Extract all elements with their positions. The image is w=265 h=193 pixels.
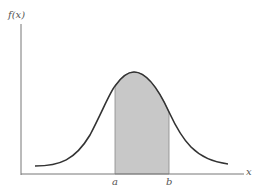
y-axis-label: f(x) — [8, 9, 25, 20]
shaded-area-a-to-b — [115, 72, 169, 174]
lower-bound-label: a — [112, 176, 118, 187]
upper-bound-label: b — [166, 176, 172, 187]
density-diagram — [0, 0, 265, 193]
x-axis-label: x — [246, 166, 252, 177]
